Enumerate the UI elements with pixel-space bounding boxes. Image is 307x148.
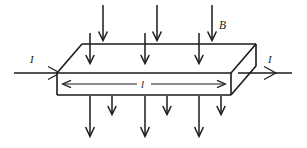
- length-label: l: [141, 78, 144, 90]
- current-in-label: I: [29, 53, 35, 65]
- field-arrows-below-short: [108, 96, 225, 115]
- current-in-arrow: [14, 67, 62, 80]
- current-out-label: I: [267, 53, 273, 65]
- physics-figure: B I: [0, 0, 307, 148]
- field-arrow-below-long-1: [86, 96, 95, 137]
- magnetic-field-label: B: [219, 19, 226, 31]
- field-arrow-above-long-2: [153, 5, 162, 41]
- field-arrow-below-long-3: [195, 96, 204, 137]
- figure-canvas: B I: [0, 0, 307, 148]
- field-arrow-below-short-3: [217, 96, 225, 115]
- field-arrow-above-long-3: [208, 5, 217, 41]
- field-arrow-below-short-1: [108, 96, 116, 115]
- field-arrow-below-long-2: [141, 96, 150, 137]
- field-arrow-below-short-2: [163, 96, 171, 115]
- field-arrow-above-long-1: [99, 5, 108, 41]
- field-arrows-below-long: [86, 96, 204, 137]
